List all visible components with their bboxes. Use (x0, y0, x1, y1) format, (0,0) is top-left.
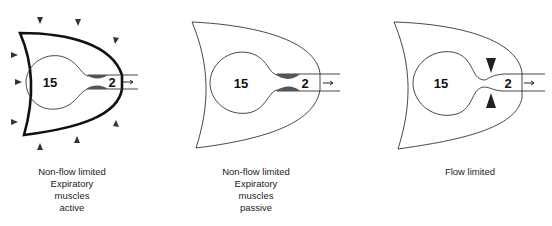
flow-arrow-icon (524, 81, 534, 85)
collapse-arrow-up-icon (486, 93, 496, 108)
compression-lower (86, 86, 108, 89)
chest-wall (20, 33, 122, 135)
panel-active: 15 2 (11, 17, 138, 150)
alveolar-pressure-label: 15 (234, 76, 248, 91)
caption-flow-limited: Flow limited (400, 166, 540, 178)
caption-active: Non-flow limited Expiratory muscles acti… (2, 166, 142, 214)
alveolar-pressure-label: 15 (43, 75, 57, 90)
compression-lower (275, 87, 300, 92)
airway-pressure-label: 2 (301, 76, 308, 91)
airway-pressure-label: 2 (504, 76, 511, 91)
alveolar-pressure-label: 15 (434, 76, 448, 91)
caption-passive: Non-flow limited Expiratory muscles pass… (186, 166, 326, 214)
airway-pressure-label: 2 (108, 75, 115, 90)
panel-passive: 15 2 (192, 22, 340, 148)
panel-flow-limited: 15 2 (394, 22, 545, 149)
compression-upper (275, 74, 300, 79)
flow-arrow-icon (122, 80, 133, 84)
flow-arrow-icon (323, 81, 333, 85)
collapse-arrow-down-icon (486, 58, 496, 73)
compression-upper (86, 75, 108, 78)
